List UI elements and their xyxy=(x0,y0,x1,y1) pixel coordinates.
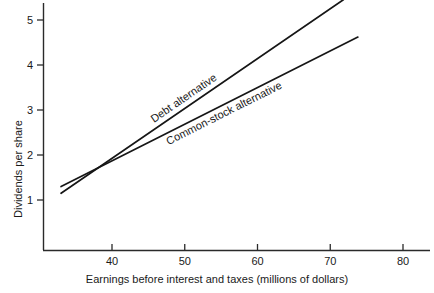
y-axis-tick-label: 3 xyxy=(27,105,33,116)
x-axis-tick-label: 70 xyxy=(324,256,336,267)
x-axis-ticks xyxy=(112,244,403,251)
series-line xyxy=(61,37,358,186)
x-axis-tick-label: 40 xyxy=(106,256,118,267)
y-axis-tick-label: 5 xyxy=(27,15,33,26)
y-axis-tick-label: 1 xyxy=(27,195,33,206)
y-axis-ticks xyxy=(37,20,44,200)
x-axis-tick-label: 80 xyxy=(397,256,409,267)
y-axis-tick-label: 4 xyxy=(27,60,33,71)
x-axis-title: Earnings before interest and taxes (mill… xyxy=(86,274,348,285)
x-axis-tick-label: 60 xyxy=(251,256,263,267)
plot-area xyxy=(0,0,434,293)
data-series xyxy=(61,0,358,193)
x-axis-tick-label: 50 xyxy=(179,256,191,267)
chart-figure: 12345 4050607080 Debt alternativeCommon-… xyxy=(0,0,434,293)
axes xyxy=(43,3,430,251)
y-axis-title: Dividends per share xyxy=(13,120,24,218)
y-axis-tick-label: 2 xyxy=(27,150,33,161)
